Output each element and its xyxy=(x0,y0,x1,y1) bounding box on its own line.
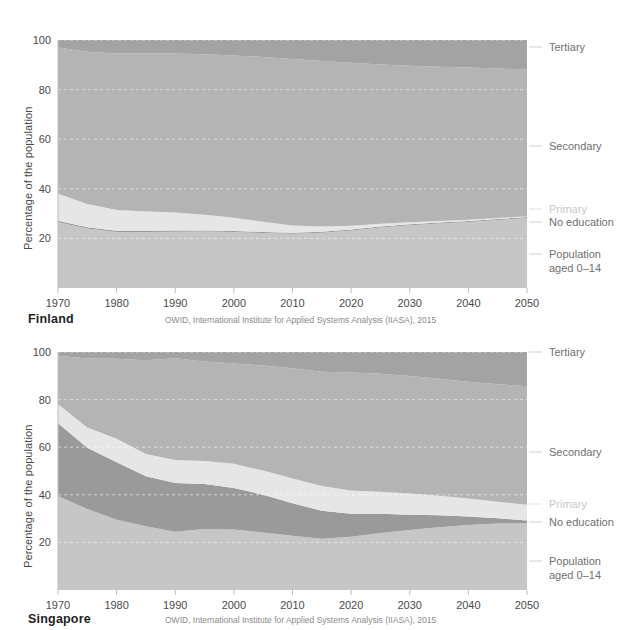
legend-label-population_0_14-line1[interactable]: Population xyxy=(549,248,601,260)
x-tick-label-1990: 1990 xyxy=(163,297,187,309)
x-tick-label-1970: 1970 xyxy=(46,599,70,610)
chart-panel-singapore: 2040608010019701980199020002010202020302… xyxy=(0,330,631,630)
stacked-area-svg-singapore: 2040608010019701980199020002010202020302… xyxy=(0,330,631,610)
x-tick-label-2000: 2000 xyxy=(222,297,246,309)
y-tick-label-60: 60 xyxy=(39,441,51,453)
y-tick-label-20: 20 xyxy=(39,232,51,244)
x-tick-label-2050: 2050 xyxy=(515,599,539,610)
legend-label-tertiary[interactable]: Tertiary xyxy=(549,346,586,358)
stacked-area-svg-finland: 2040608010019701980199020002010202020302… xyxy=(0,0,631,310)
y-tick-label-80: 80 xyxy=(39,394,51,406)
x-tick-label-1980: 1980 xyxy=(104,297,128,309)
y-tick-label-20: 20 xyxy=(39,536,51,548)
x-tick-label-2030: 2030 xyxy=(398,297,422,309)
source-note-singapore: OWID, International Institute for Applie… xyxy=(165,615,436,625)
x-tick-label-2040: 2040 xyxy=(456,297,480,309)
y-tick-label-40: 40 xyxy=(39,489,51,501)
x-tick-label-2020: 2020 xyxy=(339,297,363,309)
legend-label-population_0_14-line2[interactable]: aged 0–14 xyxy=(549,569,601,581)
legend-label-primary[interactable]: Primary xyxy=(549,203,587,215)
y-tick-label-40: 40 xyxy=(39,183,51,195)
x-tick-label-2050: 2050 xyxy=(515,297,539,309)
x-tick-label-2040: 2040 xyxy=(456,599,480,610)
country-label-singapore: Singapore xyxy=(28,612,91,626)
source-note-finland: OWID, International Institute for Applie… xyxy=(165,315,436,325)
y-axis-title-singapore: Percentage of the population xyxy=(22,425,34,568)
x-tick-label-2010: 2010 xyxy=(280,599,304,610)
legend-label-secondary[interactable]: Secondary xyxy=(549,140,602,152)
y-tick-label-60: 60 xyxy=(39,133,51,145)
legend-label-population_0_14-line1[interactable]: Population xyxy=(549,555,601,567)
legend-label-population_0_14-line2[interactable]: aged 0–14 xyxy=(549,262,601,274)
legend-label-secondary[interactable]: Secondary xyxy=(549,446,602,458)
legend-label-no_education[interactable]: No education xyxy=(549,516,614,528)
legend-label-no_education[interactable]: No education xyxy=(549,216,614,228)
x-tick-label-2020: 2020 xyxy=(339,599,363,610)
x-tick-label-2010: 2010 xyxy=(280,297,304,309)
x-tick-label-1980: 1980 xyxy=(104,599,128,610)
plot-area-finland: 2040608010019701980199020002010202020302… xyxy=(0,0,631,310)
legend-label-tertiary[interactable]: Tertiary xyxy=(549,41,586,53)
x-tick-label-1990: 1990 xyxy=(163,599,187,610)
y-tick-label-100: 100 xyxy=(33,34,51,46)
x-tick-label-2030: 2030 xyxy=(398,599,422,610)
country-label-finland: Finland xyxy=(28,312,74,326)
area-band-secondary xyxy=(58,47,527,226)
owid-education-charts-page: 2040608010019701980199020002010202020302… xyxy=(0,0,631,630)
plot-area-singapore: 2040608010019701980199020002010202020302… xyxy=(0,330,631,610)
x-tick-label-1970: 1970 xyxy=(46,297,70,309)
y-tick-label-100: 100 xyxy=(33,346,51,358)
y-tick-label-80: 80 xyxy=(39,84,51,96)
x-tick-label-2000: 2000 xyxy=(222,599,246,610)
chart-panel-finland: 2040608010019701980199020002010202020302… xyxy=(0,0,631,330)
legend-label-primary[interactable]: Primary xyxy=(549,498,587,510)
y-axis-title-finland: Percentage of the population xyxy=(22,107,34,250)
